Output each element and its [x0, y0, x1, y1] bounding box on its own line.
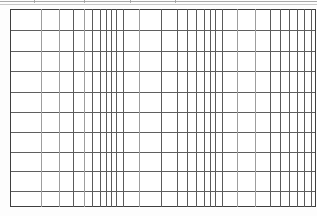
grid-column-rule [215, 9, 216, 207]
scan-artifact-tick [130, 0, 131, 3]
scan-artifact-tick [34, 0, 35, 3]
document-page [0, 0, 317, 216]
grid-column-rule [177, 9, 178, 207]
grid-column-rule [161, 9, 162, 207]
grid-column-rule [210, 9, 211, 207]
grid-column-rule [187, 9, 188, 207]
grid-column-rule [139, 9, 140, 207]
scan-artifact-tick [175, 0, 176, 3]
grid-column-rule [92, 9, 93, 207]
grid-column-rule [204, 9, 205, 207]
grid-column-rule [73, 9, 74, 207]
grid-column-rule [270, 9, 271, 207]
grid-column-rule [297, 9, 298, 207]
data-table-grid [10, 9, 316, 207]
grid-column-rule [84, 9, 85, 207]
grid-column-rule [100, 9, 101, 207]
grid-column-rule [10, 9, 11, 207]
scan-artifact-rule [0, 4, 317, 5]
grid-column-rule [311, 9, 312, 207]
scan-artifact-rule [0, 1, 317, 2]
grid-column-rule [237, 9, 238, 207]
grid-column-rule [255, 9, 256, 207]
grid-column-rule [59, 9, 60, 207]
scan-artifact-tick [84, 0, 85, 3]
grid-column-rule [106, 9, 107, 207]
grid-column-rule [315, 9, 316, 207]
grid-column-rule [222, 9, 223, 207]
grid-column-rule [41, 9, 42, 207]
grid-column-rule [304, 9, 305, 207]
grid-column-rule [280, 9, 281, 207]
grid-column-rule [116, 9, 117, 207]
grid-column-rule [123, 9, 124, 207]
grid-column-rule [196, 9, 197, 207]
grid-column-rule [111, 9, 112, 207]
grid-column-rule [289, 9, 290, 207]
